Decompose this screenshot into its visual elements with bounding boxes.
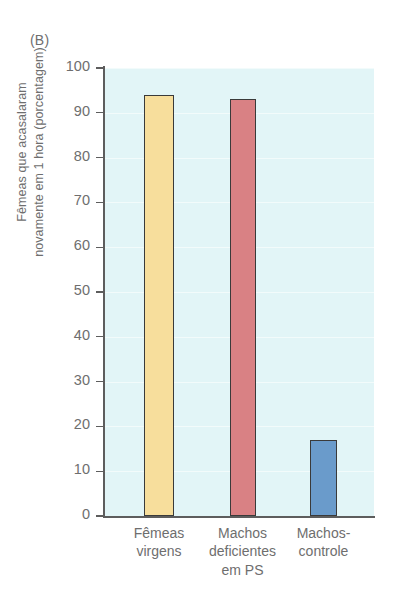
y-tick-80: [96, 157, 104, 158]
y-tick-0: [96, 515, 104, 516]
y-tick-70: [96, 202, 104, 203]
y-tick-label-0: 0: [52, 506, 90, 522]
y-axis-title: Fêmeas que acasalaram novamente em 1 hor…: [8, 32, 54, 272]
y-tick-label-50: 50: [52, 282, 90, 298]
y-tick-label-70: 70: [52, 192, 90, 208]
y-tick-10: [96, 471, 104, 472]
y-tick-20: [96, 426, 104, 427]
y-tick-label-20: 20: [52, 416, 90, 432]
y-tick-label-60: 60: [52, 237, 90, 253]
y-tick-label-40: 40: [52, 327, 90, 343]
y-tick-90: [96, 112, 104, 113]
y-tick-30: [96, 381, 104, 382]
gridline: [104, 68, 374, 69]
y-tick-50: [96, 291, 104, 292]
y-tick-label-80: 80: [52, 148, 90, 164]
x-category-label-3: Machos- controle: [278, 524, 370, 561]
bar-1: [144, 95, 174, 516]
y-tick-label-90: 90: [52, 103, 90, 119]
figure-panel-b: (B) Fêmeas que acasalaram novamente em 1…: [0, 0, 394, 613]
x-axis-line: [103, 516, 375, 518]
y-tick-label-100: 100: [52, 58, 90, 74]
y-tick-60: [96, 247, 104, 248]
y-tick-40: [96, 336, 104, 337]
bar-2: [230, 99, 256, 516]
y-tick-100: [96, 67, 104, 68]
y-axis-title-line-1: Fêmeas que acasalaram: [14, 82, 31, 222]
y-tick-label-30: 30: [52, 372, 90, 388]
y-tick-label-10: 10: [52, 461, 90, 477]
y-axis-title-line-2: novamente em 1 hora (porcentagem): [31, 47, 48, 257]
bar-3: [310, 440, 337, 516]
